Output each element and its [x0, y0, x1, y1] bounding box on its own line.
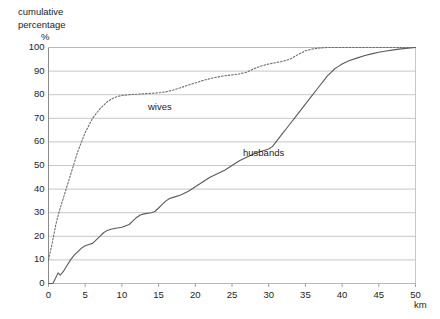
y-tick-10: 10 — [23, 253, 45, 264]
series-label-wives: wives — [148, 101, 172, 112]
y-tick-90: 90 — [23, 65, 45, 76]
cumulative-percentage-chart: cumulativepercentage % km wives husbands… — [0, 0, 440, 319]
y-tick-20: 20 — [23, 230, 45, 241]
y-tick-70: 70 — [23, 112, 45, 123]
axis-ticks — [49, 284, 416, 288]
x-tick-50: 50 — [404, 289, 428, 300]
y-tick-100: 100 — [23, 41, 45, 52]
x-tick-45: 45 — [367, 289, 391, 300]
y-axis-title-line2: percentage — [18, 19, 66, 30]
y-tick-60: 60 — [23, 135, 45, 146]
plot-canvas — [0, 0, 440, 319]
x-tick-5: 5 — [73, 289, 97, 300]
series-line-wives — [49, 48, 416, 260]
y-tick-50: 50 — [23, 159, 45, 170]
x-tick-35: 35 — [293, 289, 317, 300]
y-tick-40: 40 — [23, 183, 45, 194]
series-label-husbands: husbands — [243, 147, 284, 158]
x-axis-unit-km: km — [414, 299, 427, 312]
x-tick-0: 0 — [37, 289, 61, 300]
x-tick-15: 15 — [147, 289, 171, 300]
x-tick-30: 30 — [257, 289, 281, 300]
y-axis-title: cumulativepercentage — [18, 6, 66, 31]
x-tick-25: 25 — [220, 289, 244, 300]
y-axis-title-line1: cumulative — [18, 6, 63, 17]
y-tick-0: 0 — [23, 277, 45, 288]
y-tick-80: 80 — [23, 88, 45, 99]
y-tick-30: 30 — [23, 206, 45, 217]
x-tick-20: 20 — [183, 289, 207, 300]
x-tick-40: 40 — [330, 289, 354, 300]
x-tick-10: 10 — [110, 289, 134, 300]
